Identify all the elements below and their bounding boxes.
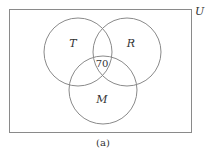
figure-caption: (a) xyxy=(96,137,110,148)
universe-label: U xyxy=(195,5,205,18)
set-circle-t xyxy=(44,18,112,86)
universe-rectangle xyxy=(10,10,192,133)
venn-diagram: U T R M 70 (a) xyxy=(0,0,206,157)
set-label-t: T xyxy=(69,37,78,50)
region-value-trm: 70 xyxy=(96,58,109,69)
set-label-m: M xyxy=(95,93,108,106)
set-label-r: R xyxy=(126,37,135,50)
set-circle-r xyxy=(93,18,161,86)
